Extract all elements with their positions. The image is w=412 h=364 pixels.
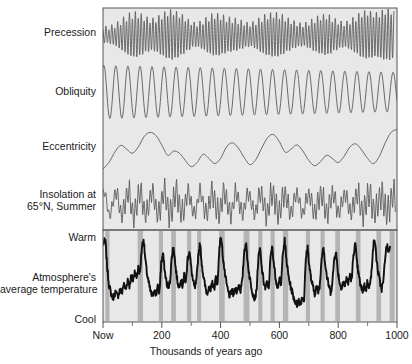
plot-area [0, 0, 412, 364]
x-axis-tick-label: 1000 [367, 329, 412, 341]
x-axis-ticks [103, 322, 397, 328]
x-axis-tick-label: 400 [191, 329, 251, 341]
upper-panel-background [103, 8, 397, 230]
x-axis-tick-label: 600 [249, 329, 309, 341]
x-axis-tick-label: 200 [132, 329, 192, 341]
interglacial-band [390, 231, 395, 321]
x-axis-tick-label: Now [73, 329, 133, 341]
x-axis-tick-label: 800 [308, 329, 368, 341]
interglacial-band [187, 231, 191, 321]
milankovitch-figure: Precession Obliquity Eccentricity Insola… [0, 0, 412, 364]
interglacial-band [258, 231, 262, 321]
interglacial-band [171, 231, 176, 321]
interglacial-band [271, 231, 275, 321]
x-axis-title: Thousands of years ago [0, 345, 412, 357]
